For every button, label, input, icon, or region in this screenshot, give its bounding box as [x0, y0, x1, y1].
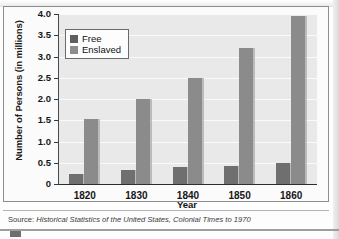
scan-right-edge: [333, 0, 339, 239]
y-axis-tick: [54, 78, 59, 79]
legend-swatch-free: [70, 35, 78, 43]
legend-item-enslaved: Enslaved: [70, 44, 121, 55]
y-axis-tick-label: 2.5: [11, 72, 51, 83]
y-axis-tick-label: 2.0: [11, 93, 51, 104]
source-citation: Historical Statistics of the United Stat…: [34, 215, 250, 224]
y-axis-tick: [54, 14, 59, 15]
x-axis-title: Year: [58, 199, 316, 210]
y-axis-tick: [54, 57, 59, 58]
y-axis-tick-label: 0: [11, 178, 51, 189]
bar-free-1850: [224, 166, 238, 184]
source-label: Source:: [8, 215, 34, 224]
y-axis-tick-label: 3.5: [11, 29, 51, 40]
bar-free-1830: [121, 170, 135, 184]
y-axis-tick-label: 4.0: [11, 8, 51, 19]
page-corner-mark: [10, 231, 21, 237]
bar-enslaved-1830: [136, 99, 150, 184]
y-axis-tick-label: 0.5: [11, 157, 51, 168]
gridline: [59, 14, 317, 15]
legend-label-free: Free: [82, 33, 102, 44]
y-axis-tick-label: 1.5: [11, 114, 51, 125]
source-note: Source: Historical Statistics of the Uni…: [8, 215, 251, 224]
y-axis-tick: [54, 142, 59, 143]
chart-frame: Number of Persons (in millions) 4.03.53.…: [3, 6, 329, 202]
bar-enslaved-1840: [188, 78, 202, 184]
y-axis-tick: [54, 184, 59, 185]
legend-label-enslaved: Enslaved: [82, 44, 121, 55]
source-divider: [3, 210, 329, 211]
y-axis-tick: [54, 99, 59, 100]
page-background: Number of Persons (in millions) 4.03.53.…: [0, 0, 339, 239]
bar-enslaved-1860: [291, 16, 305, 184]
bar-enslaved-1850: [239, 48, 253, 184]
legend-swatch-enslaved: [70, 46, 78, 54]
bar-free-1860: [276, 163, 290, 184]
y-axis-tick-label: 3.0: [11, 51, 51, 62]
bar-enslaved-1820: [84, 119, 98, 184]
bar-free-1820: [69, 174, 83, 184]
y-axis-tick-label: 1.0: [11, 136, 51, 147]
legend-item-free: Free: [70, 33, 121, 44]
y-axis-tick: [54, 163, 59, 164]
y-axis-tick: [54, 120, 59, 121]
y-axis-tick: [54, 35, 59, 36]
chart-legend: Free Enslaved: [65, 29, 129, 59]
page-bottom-rule: [0, 229, 339, 231]
bar-free-1840: [173, 167, 187, 184]
